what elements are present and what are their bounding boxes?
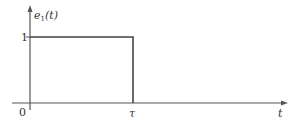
pulse-line — [30, 37, 133, 103]
origin-label: 0 — [19, 106, 26, 119]
x-axis-label: t — [278, 107, 283, 120]
y-axis-label: e1(t) — [34, 9, 58, 23]
tau-label: τ — [129, 107, 136, 120]
y-tick-label-1: 1 — [21, 31, 28, 44]
pulse-diagram: e1(t) 1 0 τ t — [0, 0, 292, 131]
y-axis-arrow-icon — [28, 5, 33, 12]
x-axis-arrow-icon — [281, 101, 288, 106]
diagram-svg: e1(t) 1 0 τ t — [0, 0, 292, 131]
